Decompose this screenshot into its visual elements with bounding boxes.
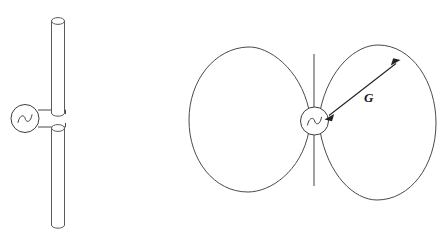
dipole-antenna-schematic: [11, 18, 66, 229]
ac-source-symbol-right: [301, 107, 329, 135]
upper-rod-body: [52, 21, 65, 116]
figure-root: G: [0, 0, 441, 240]
right-radiation-lobe: [317, 45, 436, 200]
antenna-figure-svg: G: [0, 0, 441, 240]
upper-dipole-element: [52, 18, 65, 117]
left-radiation-lobe: [189, 47, 309, 192]
lower-dipole-element: [52, 125, 65, 229]
upper-rod-top-cap: [52, 18, 65, 25]
gain-label: G: [364, 90, 374, 105]
lower-rod-top-cap: [52, 125, 65, 132]
radiation-pattern: G: [189, 45, 436, 200]
lower-rod-body: [52, 128, 65, 228]
ac-source-symbol-left: [11, 105, 39, 133]
